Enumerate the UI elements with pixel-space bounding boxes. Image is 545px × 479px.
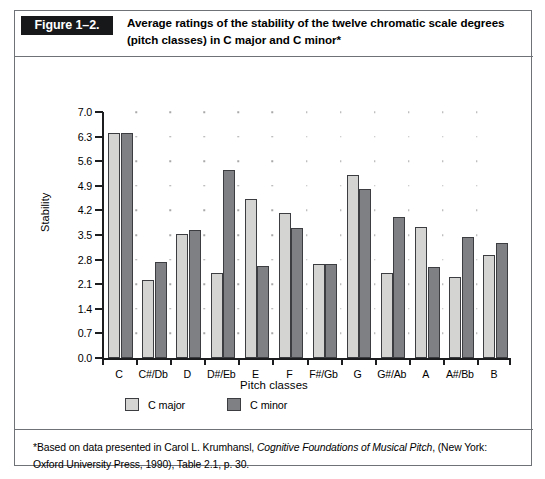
grid-dot — [374, 185, 376, 187]
grid-dot — [272, 333, 274, 335]
grid-dot — [204, 111, 206, 113]
grid-dot — [306, 283, 308, 285]
x-tick-mark — [443, 358, 445, 365]
legend-item-c-major: C major — [125, 398, 185, 411]
legend-label: C minor — [250, 399, 287, 411]
grid-dot — [340, 185, 342, 187]
y-tick-label: 0.7 — [78, 327, 92, 339]
grid-dot — [340, 333, 342, 335]
bar-CDb-minor — [155, 262, 167, 358]
light-gray-swatch — [125, 398, 139, 411]
grid-dot — [204, 308, 206, 310]
grid-dot — [476, 210, 478, 212]
x-tick-mark — [170, 358, 172, 365]
y-tick-mark — [95, 234, 103, 236]
bar-FGb-major — [313, 264, 325, 358]
y-tick-label: 7.0 — [78, 106, 92, 118]
grid-dot — [408, 234, 410, 236]
grid-dot — [442, 111, 444, 113]
footnote-prefix: *Based on data presented in Carol L. Kru… — [33, 442, 257, 453]
grid-dot — [238, 111, 240, 113]
grid-dot — [442, 136, 444, 138]
grid-dot — [442, 185, 444, 187]
bar-G-minor — [359, 189, 371, 358]
bar-F-major — [279, 213, 291, 358]
x-tick-mark — [341, 358, 343, 365]
y-tick-mark — [95, 111, 103, 113]
grid-dot — [442, 308, 444, 310]
grid-dot — [374, 111, 376, 113]
grid-dot — [272, 210, 274, 212]
bar-DEb-minor — [223, 170, 235, 358]
grid-dot — [442, 333, 444, 335]
grid-dot — [374, 210, 376, 212]
grid-dot — [476, 259, 478, 261]
plot-region: 0.00.71.42.12.83.54.24.95.66.37.0 CC#/Db… — [102, 112, 511, 358]
grid-dot — [238, 210, 240, 212]
bar-D-major — [176, 234, 188, 358]
bar-ABb-major — [449, 277, 461, 358]
y-tick-mark — [95, 136, 103, 138]
figure-caption-band: Figure 1–2. Average ratings of the stabi… — [15, 11, 533, 57]
bar-F-minor — [291, 228, 303, 358]
grid-dot — [476, 283, 478, 285]
grid-dot — [169, 283, 171, 285]
x-tick-mark — [204, 358, 206, 365]
x-tick-mark — [409, 358, 411, 365]
bar-B-major — [483, 255, 495, 358]
figure-frame: Figure 1–2. Average ratings of the stabi… — [14, 10, 532, 466]
grid-dot — [408, 259, 410, 261]
y-tick-label: 0.0 — [78, 352, 92, 364]
x-tick-mark — [375, 358, 377, 365]
grid-dot — [476, 136, 478, 138]
x-tick-mark — [477, 358, 479, 365]
bar-G-major — [347, 175, 359, 358]
grid-dot — [135, 234, 137, 236]
grid-dot — [340, 210, 342, 212]
grid-dot — [135, 136, 137, 138]
bar-A-minor — [428, 267, 440, 358]
y-tick-mark — [95, 308, 103, 310]
grid-dot — [238, 136, 240, 138]
grid-dot — [306, 136, 308, 138]
grid-dot — [442, 234, 444, 236]
grid-dot — [272, 308, 274, 310]
grid-dot — [135, 308, 137, 310]
legend-item-c-minor: C minor — [227, 398, 287, 411]
y-axis-title: Stability — [39, 193, 51, 232]
grid-dot — [374, 333, 376, 335]
grid-dot — [272, 234, 274, 236]
grid-dot — [340, 234, 342, 236]
y-tick-mark — [95, 332, 103, 334]
grid-dot — [408, 308, 410, 310]
grid-dot — [272, 185, 274, 187]
grid-dot — [204, 136, 206, 138]
grid-dot — [306, 259, 308, 261]
bar-FGb-minor — [325, 264, 337, 358]
grid-dot — [374, 283, 376, 285]
grid-dot — [238, 259, 240, 261]
x-tick-mark — [307, 358, 309, 365]
grid-dot — [306, 210, 308, 212]
grid-dot — [135, 333, 137, 335]
grid-dot — [408, 333, 410, 335]
grid-dot — [238, 333, 240, 335]
grid-dot — [204, 210, 206, 212]
bar-E-major — [245, 199, 257, 358]
grid-dot — [169, 136, 171, 138]
grid-dot — [442, 259, 444, 261]
grid-dot — [135, 111, 137, 113]
grid-dot — [374, 136, 376, 138]
chart-legend: C majorC minor — [125, 398, 287, 411]
grid-dot — [408, 283, 410, 285]
x-tick-mark — [238, 358, 240, 365]
y-tick-label: 6.3 — [78, 131, 92, 143]
grid-dot — [306, 185, 308, 187]
x-tick-mark — [509, 358, 511, 365]
grid-dot — [238, 185, 240, 187]
footnote-divider — [15, 429, 533, 430]
y-tick-mark — [95, 283, 103, 285]
grid-dot — [135, 185, 137, 187]
bar-GAb-minor — [393, 217, 405, 358]
x-tick-mark — [272, 358, 274, 365]
